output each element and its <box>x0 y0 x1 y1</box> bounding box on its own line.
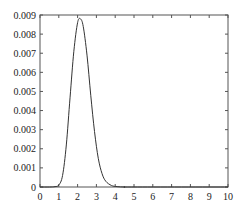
density-curve <box>40 18 228 187</box>
y-tick-label: 0.008 <box>14 29 37 40</box>
y-axis-ticks: 00.0010.0020.0030.0040.0050.0060.0070.00… <box>14 10 229 193</box>
y-tick-label: 0.006 <box>14 67 37 78</box>
y-tick-label: 0 <box>31 182 36 193</box>
line-chart: 00.0010.0020.0030.0040.0050.0060.0070.00… <box>0 0 243 207</box>
x-tick-label: 8 <box>188 191 193 202</box>
y-tick-label: 0.007 <box>14 48 37 59</box>
x-tick-label: 3 <box>94 191 99 202</box>
x-axis-ticks: 012345678910 <box>38 15 234 202</box>
x-tick-label: 7 <box>169 191 174 202</box>
plot-frame <box>40 15 228 187</box>
x-tick-label: 4 <box>113 191 118 202</box>
x-tick-label: 2 <box>75 191 80 202</box>
y-tick-label: 0.009 <box>14 10 37 21</box>
y-tick-label: 0.003 <box>14 124 37 135</box>
y-tick-label: 0.005 <box>14 86 37 97</box>
x-tick-label: 9 <box>207 191 212 202</box>
y-tick-label: 0.002 <box>14 143 37 154</box>
x-tick-label: 0 <box>38 191 43 202</box>
y-tick-label: 0.001 <box>14 162 37 173</box>
x-tick-label: 5 <box>132 191 137 202</box>
x-tick-label: 1 <box>56 191 61 202</box>
x-tick-label: 6 <box>150 191 155 202</box>
y-tick-label: 0.004 <box>14 105 37 116</box>
x-tick-label: 10 <box>223 191 233 202</box>
